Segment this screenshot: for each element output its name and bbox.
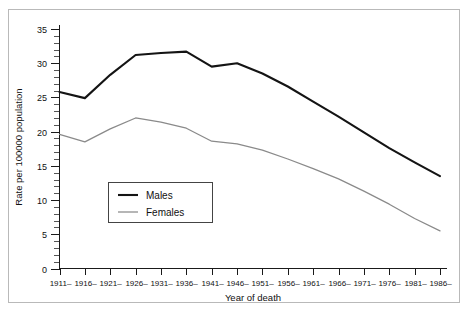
y-tick-label: 25 <box>37 93 47 103</box>
chart-figure: 05101520253035 1911–1916–1921–1926–1931–… <box>0 0 468 313</box>
x-tick-label: 1936– <box>175 279 198 288</box>
x-tick-label: 1931– <box>150 279 173 288</box>
legend: Males Females <box>109 183 213 223</box>
x-axis-title: Year of death <box>225 292 281 303</box>
x-axis-major-ticks <box>61 269 441 276</box>
y-tick-label: 20 <box>37 128 47 138</box>
y-tick-label: 0 <box>42 265 47 275</box>
y-tick-label: 5 <box>42 230 47 240</box>
y-tick-label: 15 <box>37 162 47 172</box>
x-tick-label: 1956– <box>277 279 300 288</box>
legend-label-females: Females <box>146 207 184 218</box>
x-tick-label: 1966– <box>328 279 351 288</box>
x-tick-label: 1921– <box>99 279 122 288</box>
x-axis-tick-labels: 1911–1916–1921–1926–1931–1936–1941–1946–… <box>50 279 453 288</box>
y-axis-minor-ticks <box>54 37 60 263</box>
x-tick-label: 1976– <box>378 279 401 288</box>
y-tick-label: 30 <box>37 59 47 69</box>
x-tick-label: 1941– <box>201 279 224 288</box>
x-tick-label: 1911– <box>50 279 72 288</box>
x-tick-label: 1971– <box>353 279 376 288</box>
y-axis-title: Rate per 100000 population <box>13 88 24 205</box>
y-axis-major-ticks <box>51 30 60 270</box>
y-tick-label: 35 <box>37 25 47 35</box>
x-tick-label: 1926– <box>125 279 148 288</box>
x-tick-label: 1946– <box>226 279 249 288</box>
x-tick-label: 1951– <box>251 279 274 288</box>
legend-label-males: Males <box>146 190 173 201</box>
x-tick-label: 1986– <box>429 279 452 288</box>
line-chart: 05101520253035 1911–1916–1921–1926–1931–… <box>0 0 468 313</box>
y-tick-label: 10 <box>37 196 47 206</box>
x-tick-label: 1961– <box>302 279 325 288</box>
y-axis-tick-labels: 05101520253035 <box>37 25 47 275</box>
x-tick-label: 1981– <box>404 279 427 288</box>
x-tick-label: 1916– <box>74 279 97 288</box>
series-line-males <box>60 52 441 177</box>
